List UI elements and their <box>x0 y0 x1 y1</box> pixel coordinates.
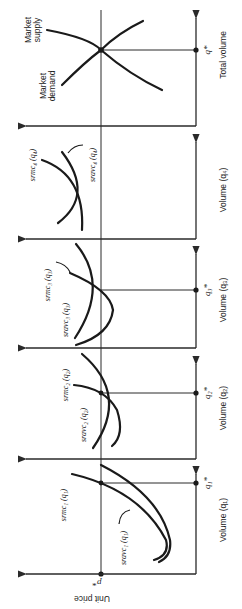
firm1-volume-axis-label: Volume (q₁) <box>218 498 228 542</box>
economics-diagram: p* Unit price q* Total volume Market sup… <box>0 0 242 609</box>
firm2-panel: srmc₂ (q₂) sravc₂ (q₂) q₂* Volume (q₂) <box>26 354 228 459</box>
market-supply-label-line2: supply <box>32 17 42 42</box>
firm1-q-star-label: q₁* <box>202 476 212 489</box>
firm2-sravc-label: sravc₂ (q₂) <box>79 408 88 443</box>
firm3-srmc-leader <box>56 262 70 272</box>
total-volume-axis-label: Total volume <box>218 31 228 79</box>
firm3-volume-axis-label: Volume (q₃) <box>218 278 228 323</box>
firm1-srmc-label: srmc₁ (q₁) <box>59 488 68 521</box>
firm4-panel: srmc₄ (q₄) sravc₄ (q₄) Volume (q₄) <box>26 142 228 239</box>
firm3-q-star-dot <box>193 287 198 292</box>
unit-price-axis-label: Unit price <box>74 594 110 604</box>
firm3-panel: srmc₃ (q₃) sravc₃ (q₃) q₃* Volume (q₃) <box>26 244 228 348</box>
firm4-sravc-leader <box>68 145 83 153</box>
firm4-volume-axis-label: Volume (q₄) <box>218 168 228 213</box>
firm3-srmc-label: srmc₃ (q₃) <box>43 268 52 301</box>
market-supply-curve <box>47 30 162 90</box>
firm1-q-star-dot <box>193 480 198 485</box>
firm1-sravc-curve <box>101 465 170 562</box>
p-star-label: p* <box>92 578 103 588</box>
firm3-q-star-label: q₃* <box>202 283 212 296</box>
firm2-srmc-label: srmc₂ (q₂) <box>61 368 70 401</box>
firm2-q-star-label: q₂* <box>202 386 212 399</box>
firm1-panel: srmc₁ (q₁) sravc₁ (q₁) q₁* Volume (q₁) <box>26 465 228 574</box>
market-demand-curve <box>62 21 143 85</box>
market-q-star-dot <box>193 47 198 52</box>
firm2-volume-axis-label: Volume (q₂) <box>218 386 228 431</box>
firm3-sravc-label: sravc₃ (q₃) <box>61 303 70 338</box>
market-q-star-label: q* <box>202 45 212 55</box>
market-panel: q* Total volume Market supply Market dem… <box>23 16 228 126</box>
firm4-sravc-label: sravc₄ (q₄) <box>88 148 97 183</box>
firm3-srmc-curve <box>75 244 93 338</box>
firm4-srmc-label: srmc₄ (q₄) <box>28 148 37 181</box>
firm1-sravc-leader <box>119 510 130 524</box>
firm1-sravc-label: sravc₁ (q₁) <box>119 531 128 566</box>
firm2-q-star-dot <box>193 390 198 395</box>
market-demand-label-line2: demand <box>47 70 57 101</box>
